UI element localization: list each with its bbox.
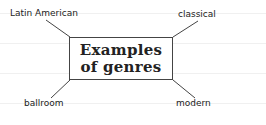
- branch-classical: classical: [178, 9, 216, 19]
- central-topic-line2: of genres: [80, 59, 161, 76]
- branch-modern: modern: [176, 98, 211, 108]
- branch-latin-american: Latin American: [10, 8, 78, 18]
- central-topic-line1: Examples: [80, 42, 163, 59]
- central-topic-box: Examples of genres: [69, 37, 173, 80]
- branch-ballroom: ballroom: [24, 98, 64, 108]
